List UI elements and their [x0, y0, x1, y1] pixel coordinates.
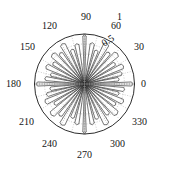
theta-label-120: 120: [42, 21, 57, 31]
radial-label-1: 1: [117, 12, 122, 22]
theta-label-210: 210: [19, 117, 34, 127]
theta-label-240: 240: [42, 139, 57, 149]
theta-label-330: 330: [132, 117, 147, 127]
theta-label-150: 150: [20, 42, 35, 52]
theta-label-300: 300: [110, 139, 125, 149]
polar-plot-figure: 0 30 60 90 120 150 180 210 240 270 300 3…: [0, 0, 170, 170]
theta-label-60: 60: [111, 21, 121, 31]
theta-label-180: 180: [6, 79, 21, 89]
theta-label-30: 30: [134, 42, 144, 52]
theta-label-90: 90: [81, 12, 91, 22]
theta-label-270: 270: [77, 150, 92, 160]
theta-label-0: 0: [141, 79, 146, 89]
